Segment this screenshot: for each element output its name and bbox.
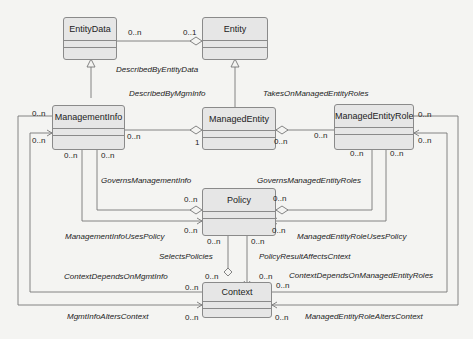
assoc-managed-entity-role-uses-policy: ManagedEntityRoleUsesPolicy [297, 232, 406, 241]
assoc-governs-management-info: GovernsManagementInfo [101, 176, 191, 185]
mult-mi-mid-left: 0..n [32, 136, 45, 145]
class-name: ManagementInfo [53, 106, 124, 129]
attributes-compartment [64, 41, 116, 48]
operations-compartment [53, 136, 124, 142]
mult-entitydata-end: 0..n [128, 28, 141, 37]
mult-mi-bottom-1: 0..n [64, 151, 77, 160]
mult-policy-right-bottom: 0..n [272, 226, 285, 235]
mult-policy-left-top: 0..n [184, 195, 197, 204]
class-name: EntityData [64, 18, 116, 41]
assoc-takes-on-managed-entity-roles: TakesOnManagedEntityRoles [263, 89, 369, 98]
mult-mer-left: 0..n [314, 131, 327, 140]
mult-policy-right-top: 0..n [273, 194, 286, 203]
attributes-compartment [203, 131, 275, 138]
class-name: ManagedEntity [203, 108, 275, 131]
class-name: Entity [203, 18, 267, 41]
assoc-context-depends-on-mgmt-info: ContextDependsOnMgmtInfo [64, 272, 168, 281]
class-entitydata[interactable]: EntityData [63, 17, 117, 60]
mult-context-right-1: 0..n [276, 281, 289, 290]
class-policy[interactable]: Policy [202, 188, 276, 236]
attributes-compartment [53, 129, 124, 136]
assoc-selects-policies: SelectsPolicies [159, 252, 213, 261]
assoc-managed-entity-role-alters-context: ManagedEntityRoleAltersContext [305, 312, 423, 321]
assoc-management-info-uses-policy: ManagementInfoUsesPolicy [65, 232, 165, 241]
mult-mer-mid-right: 0..n [418, 136, 431, 145]
mult-policy-bottom-1: 0..n [207, 237, 220, 246]
mult-entity-end: 0..1 [183, 28, 196, 37]
class-managedentity[interactable]: ManagedEntity [202, 107, 276, 150]
mult-context-left-2: 0..n [185, 313, 198, 322]
class-entity[interactable]: Entity [202, 17, 268, 60]
mult-mer-bottom-1: 0..n [350, 149, 363, 158]
mult-context-top-right: 0..n [259, 272, 272, 281]
class-managementinfo[interactable]: ManagementInfo [52, 105, 125, 150]
mult-me-right: 0..n [274, 137, 287, 146]
operations-compartment [203, 219, 275, 225]
mult-mer-top-right: 0..n [418, 110, 431, 119]
operations-compartment [64, 48, 116, 54]
attributes-compartment [335, 128, 413, 135]
assoc-governs-managed-entity-roles: GovernsManagedEntityRoles [257, 176, 361, 185]
class-name: ManagedEntityRole [335, 105, 413, 128]
mult-context-top-left: 0..n [205, 272, 218, 281]
operations-compartment [203, 309, 271, 315]
mult-mi-right: 0..n [127, 132, 140, 141]
assoc-context-depends-on-managed-entity-roles: ContextDependsOnManagedEntityRoles [289, 271, 433, 280]
mult-mer-bottom-2: 0..n [390, 149, 403, 158]
operations-compartment [203, 48, 267, 54]
mult-mi-top-left: 0..n [32, 109, 45, 118]
attributes-compartment [203, 302, 271, 309]
class-name: Policy [203, 189, 275, 212]
attributes-compartment [203, 212, 275, 219]
operations-compartment [335, 135, 413, 141]
mult-policy-bottom-2: 0..n [251, 237, 264, 246]
assoc-described-by-mgm-info: DescribedByMgmInfo [129, 89, 205, 98]
class-managedentityrole[interactable]: ManagedEntityRole [334, 104, 414, 150]
class-name: Context [203, 283, 271, 302]
assoc-policy-result-affects-cntext: PolicyResultAffectsCntext [259, 252, 351, 261]
mult-me-left: 1 [195, 138, 199, 147]
mult-context-left-1: 0..n [185, 283, 198, 292]
mult-context-right-2: 0..n [275, 313, 288, 322]
mult-policy-left-bottom: 0..n [184, 226, 197, 235]
assoc-described-by-entity-data: DescribedByEntityData [116, 65, 198, 74]
assoc-mgmt-info-alters-context: MgmtInfoAltersContext [67, 312, 148, 321]
operations-compartment [203, 138, 275, 144]
attributes-compartment [203, 41, 267, 48]
class-context[interactable]: Context [202, 282, 272, 318]
mult-mi-bottom-2: 0..n [101, 151, 114, 160]
